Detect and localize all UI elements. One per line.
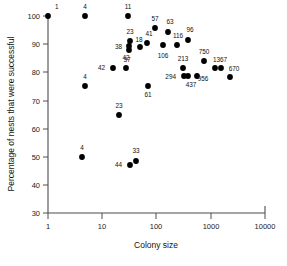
data-point	[174, 42, 180, 48]
y-tick-label-100: 100	[27, 12, 40, 21]
data-point-label: 437	[186, 81, 197, 88]
y-tick-label-50: 50	[32, 153, 40, 162]
data-point-label: 116	[173, 32, 184, 39]
x-tick-label-1000: 1000	[203, 222, 220, 231]
data-point-label: 750	[199, 48, 210, 55]
data-point-label: 23	[126, 28, 134, 35]
data-point	[82, 83, 88, 89]
data-point-label: 33	[132, 147, 140, 154]
data-point-label: 213	[178, 55, 189, 62]
data-point-label: 41	[145, 30, 153, 37]
data-point-label: 44	[115, 161, 123, 168]
data-point-label: 956	[198, 75, 209, 82]
data-point	[185, 37, 191, 43]
data-point-label: 42	[98, 64, 106, 71]
data-point-label: 63	[166, 18, 174, 25]
y-axis-title: Percentage of nests that were successful	[6, 36, 16, 191]
data-point	[79, 154, 85, 160]
data-point	[137, 44, 143, 50]
data-point-label: 4	[80, 144, 84, 151]
data-point-label: 37	[123, 56, 131, 63]
data-point-label: 4	[83, 3, 87, 10]
data-point-label: 106	[158, 52, 169, 59]
data-point	[133, 158, 139, 164]
data-point	[185, 73, 191, 79]
data-point-label: 23	[115, 102, 123, 109]
data-point-label: 11	[125, 3, 132, 10]
data-point	[127, 162, 133, 168]
data-point	[144, 40, 150, 46]
data-point	[116, 112, 122, 118]
data-point-label: 294	[165, 73, 176, 80]
y-tick-label-80: 80	[32, 68, 40, 77]
data-point-label: 670	[229, 65, 240, 72]
data-point	[165, 29, 171, 35]
x-axis-title: Colony size	[134, 240, 178, 250]
plot-canvas: 100 90 80 70 60 50 40 30 1 10 100 1000 1…	[0, 0, 287, 266]
y-axis-ticks	[43, 16, 48, 213]
data-point	[152, 25, 158, 31]
data-point-label: 57	[151, 15, 159, 22]
data-point	[110, 65, 116, 71]
x-tick-label-10: 10	[98, 222, 106, 231]
data-point	[212, 65, 218, 71]
data-point	[180, 65, 186, 71]
data-point-label: 4	[83, 73, 87, 80]
data-markers-layer: 1411576396234111610638421875021313674237…	[45, 3, 240, 168]
data-point-label: 96	[186, 26, 194, 33]
data-point	[227, 74, 233, 80]
y-tick-label-40: 40	[32, 181, 40, 190]
data-point	[45, 13, 51, 19]
data-point-label: 18	[135, 36, 143, 43]
x-tick-label-10000: 10000	[255, 222, 276, 231]
data-point	[125, 13, 131, 19]
data-point	[160, 42, 166, 48]
data-point	[123, 65, 129, 71]
x-tick-label-100: 100	[150, 222, 163, 231]
data-point	[126, 47, 132, 53]
x-axis-ticks	[48, 213, 265, 219]
y-tick-label-30: 30	[32, 209, 40, 218]
data-point	[127, 38, 133, 44]
data-point-label: 1	[55, 3, 59, 10]
data-point	[82, 13, 88, 19]
y-tick-label-70: 70	[32, 97, 40, 106]
data-point-label: 1367	[213, 56, 228, 63]
data-point	[145, 83, 151, 89]
data-point	[218, 65, 224, 71]
y-tick-label-60: 60	[32, 125, 40, 134]
x-tick-label-1: 1	[46, 222, 50, 231]
data-point	[201, 58, 207, 64]
data-point-label: 38	[115, 43, 123, 50]
scatter-plot-figure: 100 90 80 70 60 50 40 30 1 10 100 1000 1…	[0, 0, 287, 266]
data-point-label: 61	[144, 91, 152, 98]
y-tick-label-90: 90	[32, 40, 40, 49]
